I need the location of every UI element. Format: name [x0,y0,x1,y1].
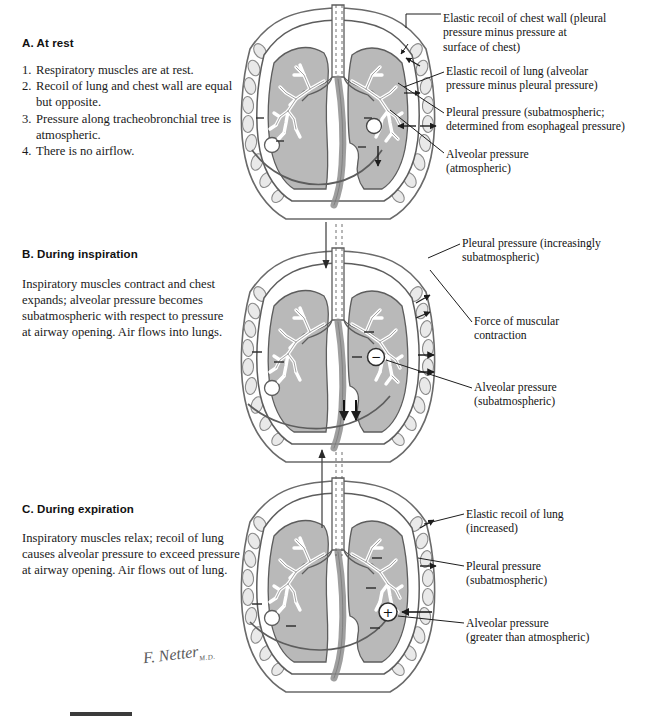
alveolus-sign: + [383,605,394,620]
list-item: 2. Recoil of lung and chest wall are equ… [22,79,237,111]
list-item: 4. There is no airflow. [22,144,237,160]
pleural-minus-signs [256,118,372,147]
callout-line: Elastic recoil of lung (alveolar [446,65,644,79]
pleural-minus-signs [252,332,374,362]
figure-at-rest [241,5,444,219]
list-item-number: 3. [22,112,31,128]
callout-line: Alveolar pressure [466,617,645,631]
illustration-page: A. At rest 1. Respiratory muscles are at… [0,0,645,719]
callout-line: pressure minus pressure at [443,26,643,40]
leader-pleural-pressure [398,83,444,113]
leader-alveolar-pressure-expiration [398,616,464,623]
callout-line: (increased) [466,522,636,536]
callout-line: pressure minus pleural pressure) [446,79,644,93]
footer-rule [70,712,132,716]
callout-line: subatmospheric) [462,251,642,265]
callout-line: (subatmospheric) [466,574,636,588]
artist-signature-text: F. Netter [142,643,199,667]
leader-elastic-recoil-chest-wall [406,14,441,28]
recoil-arrow-lung-expiration [420,520,434,528]
callout-line: (atmospheric) [446,162,636,176]
diaphragm [248,396,390,429]
callout-line: (subatmospheric) [474,395,644,409]
trachea-cartilage [336,452,342,556]
artist-signature-suffix: M.D. [199,653,216,663]
callout-pleural-pressure: Pleural pressure (subatmospheric; determ… [446,106,645,135]
trachea-cartilage [336,224,342,320]
callout-elastic-recoil-lung-expiration: Elastic recoil of lung (increased) [466,508,636,537]
callout-line: Elastic recoil of chest wall (pleural [443,12,643,26]
list-item-text: There is no airflow. [36,144,135,158]
callout-elastic-recoil-chest-wall: Elastic recoil of chest wall (pleural pr… [443,12,643,55]
callout-line: Alveolar pressure [474,381,644,395]
list-item-number: 4. [22,144,31,160]
callout-line: surface of chest) [443,41,643,55]
list-item: 1. Respiratory muscles are at rest. [22,63,237,79]
diaphragm [250,618,388,650]
list-item-text: Recoil of lung and chest wall are equal … [36,79,232,109]
panel-b-heading: B. During inspiration [22,248,138,260]
leader-elastic-recoil-lung [404,72,444,87]
callout-alveolar-pressure: Alveolar pressure (atmospheric) [446,148,636,177]
callout-line: determined from esophageal pressure) [446,120,645,134]
leader-elastic-recoil-lung-expiration [424,514,464,524]
callout-line: Pleural pressure (increasingly [462,237,642,251]
list-item-text: Pressure along tracheobronchial tree is … [36,112,231,142]
figure-expiration: + [241,450,464,692]
callout-line: contraction [474,329,634,343]
panel-c-body: Inspiratory muscles relax; recoil of lun… [22,531,240,579]
callout-elastic-recoil-lung: Elastic recoil of lung (alveolar pressur… [446,65,644,94]
alveolus-marker [368,349,385,366]
alveolus-marker [379,603,397,621]
muscular-contraction-arrows [344,400,356,420]
leader-force-muscular-contraction [430,270,472,322]
pleural-minus-signs [252,558,382,628]
leader-alveolar-pressure [390,110,444,153]
panel-a-body: 1. Respiratory muscles are at rest. 2. R… [22,63,237,161]
callout-line: Alveolar pressure [446,148,636,162]
trachea-cartilage [336,5,342,77]
leader-tick-chest-wall [401,44,408,54]
diaphragm [252,150,382,185]
callout-line: Pleural pressure (subatmospheric; [446,106,645,120]
panel-a-heading: A. At rest [22,37,74,49]
expansion-arrow-upper [416,295,430,303]
expansion-arrow-lower [416,312,430,318]
list-item-number: 2. [22,79,31,95]
callout-alveolar-pressure-expiration: Alveolar pressure (greater than atmosphe… [466,617,645,646]
callout-pleural-pressure-expiration: Pleural pressure (subatmospheric) [466,560,636,589]
leader-pleural-pressure-inspiration [428,244,460,258]
callout-line: Pleural pressure [466,560,636,574]
panel-b-body: Inspiratory muscles contract and chest e… [22,277,230,341]
artist-signature: F. NetterM.D. [142,641,216,670]
callout-alveolar-pressure-inspiration: Alveolar pressure (subatmospheric) [474,381,644,410]
leader-alveolar-pressure-inspiration [386,360,472,388]
panel-c-heading: C. During expiration [22,503,134,515]
recoil-arrow-chest-wall [406,58,420,66]
list-item-number: 1. [22,63,31,79]
callout-line: Force of muscular [474,315,634,329]
leader-pleural-pressure-expiration [418,558,464,566]
list-item-text: Respiratory muscles are at rest. [36,63,194,77]
alveolus-marker [367,119,382,134]
callout-force-of-muscular-contraction: Force of muscular contraction [474,315,634,344]
callout-line: Elastic recoil of lung [466,508,636,522]
callout-line: (greater than atmospheric) [466,631,645,645]
list-item: 3. Pressure along tracheobronchial tree … [22,112,237,144]
alveolus-sign: − [371,350,381,364]
callout-pleural-pressure-inspiration: Pleural pressure (increasingly subatmosp… [462,237,642,266]
panel-a-list: 1. Respiratory muscles are at rest. 2. R… [22,63,237,160]
figure-inspiration: − [241,222,472,462]
